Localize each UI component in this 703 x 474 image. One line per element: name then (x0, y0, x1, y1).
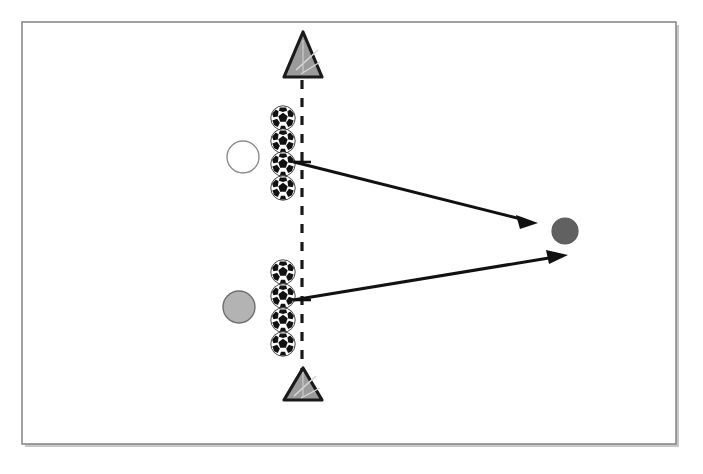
soccer-ball-icon (271, 332, 295, 356)
soccer-ball-icon (271, 106, 295, 130)
soccer-drill-diagram (0, 0, 703, 474)
player-gray-marker (223, 291, 255, 323)
drill-canvas (0, 0, 703, 474)
soccer-ball-icon (271, 176, 295, 200)
player-dark-marker (552, 218, 578, 244)
soccer-ball-icon (271, 308, 295, 332)
soccer-ball-icon (271, 152, 295, 176)
soccer-ball-icon (271, 284, 295, 308)
player-white-marker (227, 141, 259, 173)
soccer-ball-icon (271, 260, 295, 284)
soccer-ball-icon (271, 129, 295, 153)
diagram-frame (22, 22, 679, 447)
